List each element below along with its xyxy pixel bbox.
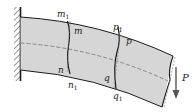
label-m1: m1 bbox=[57, 9, 69, 20]
label-p: p bbox=[126, 36, 132, 46]
beam-body bbox=[21, 17, 174, 107]
label-n: n bbox=[58, 65, 64, 75]
label-load-p: P bbox=[181, 72, 189, 83]
wall-hatching bbox=[14, 7, 20, 81]
label-q: q bbox=[104, 73, 110, 83]
fixed-support bbox=[14, 7, 21, 81]
label-q1: q1 bbox=[113, 91, 123, 102]
arrow-head-icon bbox=[173, 90, 180, 99]
load-arrow-p bbox=[173, 67, 180, 99]
label-p1: p1 bbox=[113, 22, 123, 33]
label-m: m bbox=[74, 26, 83, 36]
label-n1: n1 bbox=[68, 80, 78, 91]
cantilever-beam-diagram: m1 m n n1 p1 p q q1 P bbox=[0, 0, 195, 112]
